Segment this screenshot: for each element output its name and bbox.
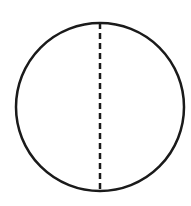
diagram-canvas [0,0,191,206]
circle-diagram [0,0,191,206]
